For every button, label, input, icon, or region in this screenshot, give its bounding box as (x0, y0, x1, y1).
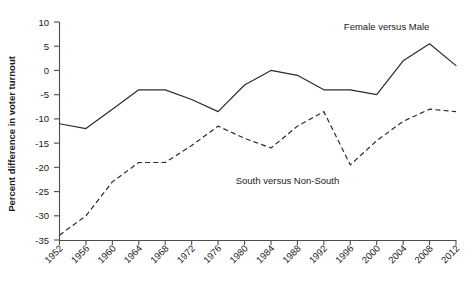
y-tick-label: 0 (44, 65, 49, 76)
x-tick-label: 1960 (95, 243, 118, 266)
x-tick-label: 1996 (333, 243, 356, 266)
x-tick-label: 2012 (439, 243, 462, 266)
x-tick-label: 1976 (201, 243, 224, 266)
series-line-south-versus-non-south (60, 109, 457, 235)
x-axis-ticks: 1952195619601964196819721976198019841988… (42, 240, 461, 265)
x-tick-label: 2004 (386, 243, 409, 266)
chart-figure: Percent difference in voter turnout 10 5… (0, 0, 469, 288)
x-tick-label: 1964 (121, 243, 144, 266)
y-tick-label: -35 (35, 235, 49, 246)
x-tick-label: 1992 (307, 243, 330, 266)
y-tick-label: -15 (35, 138, 49, 149)
x-tick-label: 1988 (280, 243, 303, 266)
x-tick-label: 1980 (227, 243, 250, 266)
y-tick-label: -30 (35, 210, 49, 221)
y-tick-label: -5 (41, 89, 49, 100)
x-tick-label: 1956 (69, 243, 92, 266)
x-tick-label: 1972 (174, 243, 197, 266)
y-tick-label: -10 (35, 113, 49, 124)
x-tick-label: 1952 (42, 243, 65, 266)
series-line-female-versus-male (60, 44, 457, 129)
series-annotation-south-versus-non-south: South versus Non-South (236, 175, 340, 186)
x-tick-label: 2008 (412, 243, 435, 266)
x-tick-label: 1984 (254, 243, 277, 266)
y-axis-title: Percent difference in voter turnout (6, 55, 17, 212)
y-tick-label: -20 (35, 162, 49, 173)
line-chart-svg: Percent difference in voter turnout 10 5… (0, 0, 469, 288)
x-tick-label: 1968 (148, 243, 171, 266)
y-tick-label: 10 (38, 17, 49, 28)
y-axis-tick-labels: 10 5 0 -5 -10 -15 -20 -25 -30 -35 (35, 17, 49, 246)
x-tick-label: 2000 (359, 243, 382, 266)
y-tick-label: -25 (35, 186, 49, 197)
y-axis-ticks (54, 22, 60, 240)
y-tick-label: 5 (44, 41, 49, 52)
series-annotation-female-versus-male: Female versus Male (344, 21, 430, 32)
